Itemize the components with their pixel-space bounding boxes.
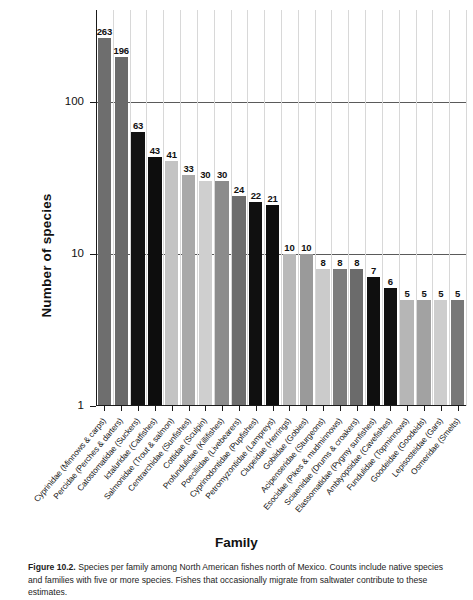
figure-container: Number of species 110100 263196634341333… [0, 0, 473, 600]
caption-text: Species per family among North American … [28, 562, 443, 597]
x-axis-category-labels: Cyprinidae (Minnows & carps)Percidae (Pe… [0, 0, 473, 600]
x-axis-label: Family [0, 535, 473, 550]
figure-caption: Figure 10.2. Species per family among No… [28, 561, 452, 599]
caption-figure-number: Figure 10.2. [28, 562, 76, 572]
